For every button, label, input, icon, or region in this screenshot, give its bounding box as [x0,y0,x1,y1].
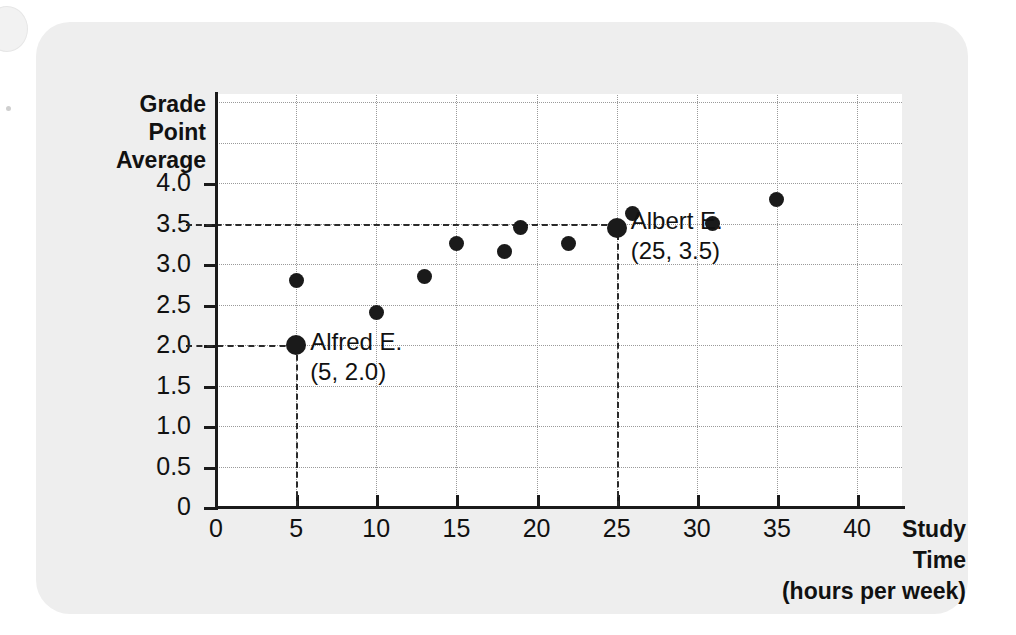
annotation-name-albert: Albert E. [631,206,723,236]
y-axis-tick-label: 2.0 [121,330,191,359]
x-axis-title-line-1: Study [736,514,966,545]
x-axis-tick-label: 0 [186,514,246,543]
page-corner-dot-icon [6,106,11,111]
x-axis-tick-label: 5 [266,514,326,543]
y-axis-tick-label: 2.5 [121,290,191,319]
y-axis-tick-label: 3.5 [121,209,191,238]
gridline-horizontal [217,183,902,184]
annotation-guide-horizontal-albert [186,224,617,226]
y-axis-line [215,92,218,509]
gridline-horizontal [217,143,902,144]
annotation-coords-albert: (25, 3.5) [631,236,723,266]
point-annotation-albert: Albert E.(25, 3.5) [631,206,723,266]
gridline-vertical [697,95,698,506]
data-point[interactable] [607,218,627,238]
x-axis-tick-label: 30 [667,514,727,543]
gridline-horizontal [217,305,902,306]
y-axis-tick-label: 0.5 [121,452,191,481]
annotation-name-alfred: Alfred E. [310,327,402,357]
y-axis-tick-label: 0 [121,492,191,521]
y-axis-title-line-1: Grade [76,90,206,118]
y-axis-title: Grade Point Average [76,90,206,174]
annotation-guide-vertical-alfred [296,345,298,507]
annotation-guide-horizontal-alfred [186,345,296,347]
data-point[interactable] [289,273,304,288]
y-axis-tick-label: 1.5 [121,371,191,400]
data-point[interactable] [369,305,384,320]
gridline-horizontal [217,426,902,427]
gridline-vertical [456,95,457,506]
gridline-horizontal [217,467,902,468]
gridline-horizontal [217,102,902,103]
data-point[interactable] [417,269,432,284]
gridline-vertical [777,95,778,506]
plot-area [216,94,902,507]
x-axis-tick-label: 20 [507,514,567,543]
x-axis-title-line-3: (hours per week) [736,576,966,607]
y-axis-title-line-3: Average [76,146,206,174]
x-axis-tick-label: 25 [587,514,647,543]
x-axis-title: Study Time (hours per week) [736,514,966,607]
gridline-horizontal [217,264,902,265]
x-axis-line [215,506,905,509]
y-axis-title-line-2: Point [76,118,206,146]
x-axis-tick-label: 15 [426,514,486,543]
annotation-guide-vertical-albert [617,224,619,507]
point-annotation-alfred: Alfred E.(5, 2.0) [310,327,402,387]
y-axis-tick-label: 3.0 [121,249,191,278]
x-axis-tick-label: 10 [346,514,406,543]
gridline-vertical [376,95,377,506]
page-corner-mark-icon [0,6,28,52]
figure-card: 00.51.01.52.02.53.03.54.0051015202530354… [36,22,968,614]
gridline-vertical [857,95,858,506]
annotation-coords-alfred: (5, 2.0) [310,357,402,387]
y-axis-tick-label: 1.0 [121,411,191,440]
x-axis-title-line-2: Time [736,545,966,576]
gridline-vertical [537,95,538,506]
